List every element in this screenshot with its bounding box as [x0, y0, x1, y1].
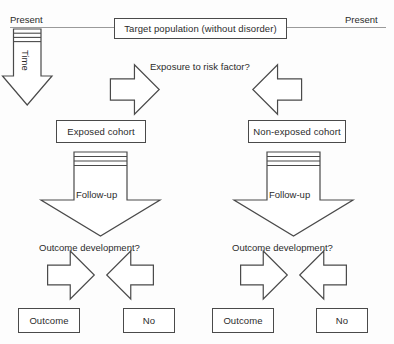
diagram-vector-layer: [0, 0, 394, 344]
outcome-label: Outcome: [223, 315, 262, 326]
non-exposed-cohort-label: Non-exposed cohort: [253, 126, 340, 137]
diagram-canvas: Present Present Time Target population (…: [0, 0, 394, 344]
outcome-box-right-cohort-yes[interactable]: Outcome: [212, 308, 274, 333]
timeline-present-left-label: Present: [10, 14, 43, 25]
no-label: No: [336, 315, 348, 326]
outcome-label: Outcome: [29, 315, 68, 326]
outcome-question-left-label: Outcome development?: [39, 242, 140, 253]
no-label: No: [143, 315, 155, 326]
outcome-question-right-label: Outcome development?: [232, 242, 333, 253]
followup-left-label: Follow-up: [76, 189, 117, 200]
timeline-present-right-label: Present: [345, 14, 378, 25]
target-population-box[interactable]: Target population (without disorder): [114, 18, 287, 39]
followup-right-label: Follow-up: [269, 189, 310, 200]
outcome-right-cohort-right-arrow-icon: [300, 247, 357, 304]
outcome-box-right-cohort-no[interactable]: No: [316, 308, 368, 333]
time-arrow-label: Time: [20, 50, 31, 71]
outcome-left-cohort-left-arrow-icon: [38, 247, 95, 304]
exposure-question-label: Exposure to risk factor?: [150, 61, 250, 72]
exposure-right-arrow-icon: [253, 60, 312, 119]
exposed-cohort-label: Exposed cohort: [67, 126, 134, 137]
outcome-left-cohort-right-arrow-icon: [107, 247, 164, 304]
outcome-box-left-cohort-yes[interactable]: Outcome: [18, 308, 80, 333]
non-exposed-cohort-box[interactable]: Non-exposed cohort: [248, 120, 346, 143]
target-population-label: Target population (without disorder): [124, 23, 277, 34]
exposed-cohort-box[interactable]: Exposed cohort: [56, 120, 146, 143]
outcome-box-left-cohort-no[interactable]: No: [123, 308, 175, 333]
outcome-right-cohort-left-arrow-icon: [231, 247, 288, 304]
